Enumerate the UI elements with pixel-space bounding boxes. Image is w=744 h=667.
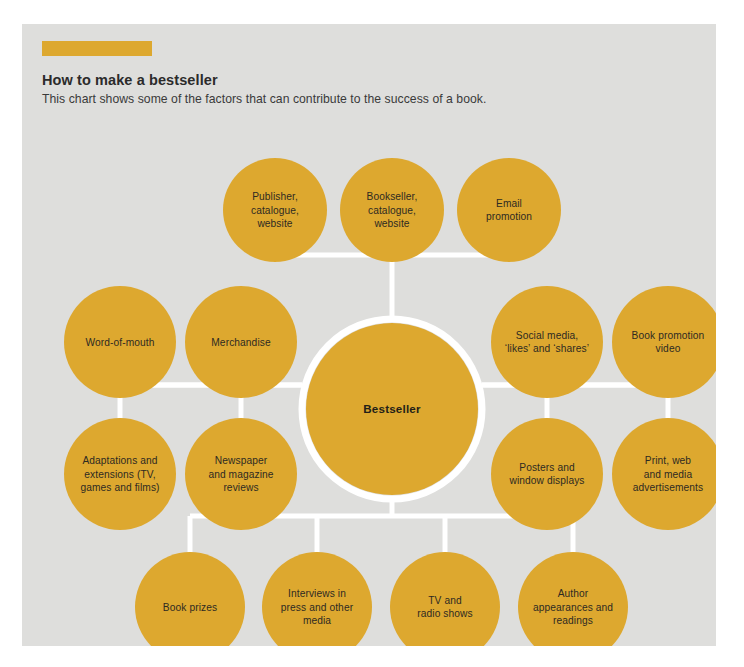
node-label-merchandise: Merchandise (211, 337, 271, 348)
node-posters-and-window-displays[interactable]: Posters andwindow displays (491, 418, 603, 530)
node-social-media-likes-and-shares[interactable]: Social media,‘likes’ and ‘shares’ (491, 286, 603, 398)
node-book-promotion-video[interactable]: Book promotionvideo (612, 286, 716, 398)
node-book-prizes[interactable]: Book prizes (135, 552, 245, 646)
nodes-layer: Publisher,catalogue,websiteBookseller,ca… (64, 158, 716, 646)
node-circle-posters-and-window-displays[interactable] (491, 418, 603, 530)
node-tv-and-radio-shows[interactable]: TV andradio shows (390, 552, 500, 646)
node-center-bestseller[interactable]: Bestseller (302, 319, 482, 499)
node-circle-book-promotion-video[interactable] (612, 286, 716, 398)
node-circle-author-appearances-and-readings[interactable] (518, 552, 628, 646)
bestseller-diagram: Publisher,catalogue,websiteBookseller,ca… (22, 24, 716, 646)
node-label-book-prizes: Book prizes (163, 602, 217, 613)
node-circle-email-promotion[interactable] (457, 158, 561, 262)
chart-panel: How to make a bestseller This chart show… (22, 24, 716, 646)
node-merchandise[interactable]: Merchandise (185, 286, 297, 398)
node-circle-book-prizes[interactable] (135, 552, 245, 646)
node-email-promotion[interactable]: Emailpromotion (457, 158, 561, 262)
node-label-adaptations-and-extensions: Adaptations andextensions (TV,games and … (80, 455, 159, 493)
node-circle-interviews-in-press-and-other-media[interactable] (262, 552, 372, 646)
node-adaptations-and-extensions[interactable]: Adaptations andextensions (TV,games and … (64, 418, 176, 530)
node-newspaper-and-magazine-reviews[interactable]: Newspaperand magazinereviews (185, 418, 297, 530)
node-interviews-in-press-and-other-media[interactable]: Interviews inpress and othermedia (262, 552, 372, 646)
node-circle-social-media-likes-and-shares[interactable] (491, 286, 603, 398)
node-print-web-and-media-advertisements[interactable]: Print, weband mediaadvertisements (612, 418, 716, 530)
node-author-appearances-and-readings[interactable]: Authorappearances andreadings (518, 552, 628, 646)
node-publisher-catalogue-website[interactable]: Publisher,catalogue,website (223, 158, 327, 262)
node-word-of-mouth[interactable]: Word-of-mouth (64, 286, 176, 398)
node-label-publisher-catalogue-website: Publisher,catalogue,website (251, 191, 299, 229)
node-bookseller-catalogue-website[interactable]: Bookseller,catalogue,website (340, 158, 444, 262)
center-label: Bestseller (363, 402, 421, 415)
node-label-word-of-mouth: Word-of-mouth (85, 337, 154, 348)
